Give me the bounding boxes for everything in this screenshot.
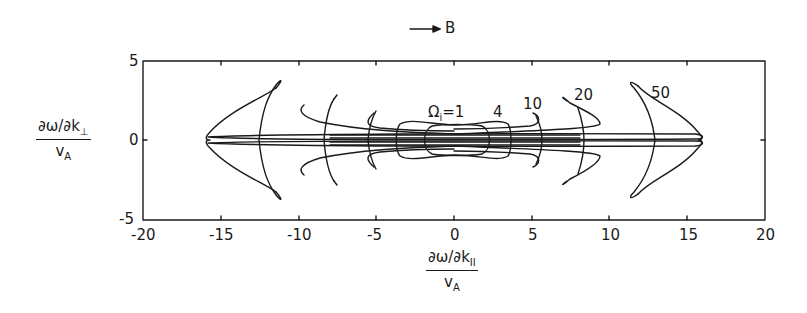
curve-label-omega-20: 20 bbox=[574, 86, 593, 104]
x-tick-10: 10 bbox=[601, 226, 620, 244]
x-tick-0: 0 bbox=[450, 226, 460, 244]
curve-label-omega-1: Ωi=1 bbox=[428, 103, 464, 123]
x-tick-neg15: -15 bbox=[209, 226, 234, 244]
group-velocity-diagram bbox=[0, 0, 807, 313]
y-tick-5: 5 bbox=[129, 52, 139, 70]
x-tick-neg10: -10 bbox=[287, 226, 312, 244]
x-tick-5: 5 bbox=[528, 226, 538, 244]
curve-omega-50 bbox=[206, 81, 702, 200]
y-axis-label: ∂ω/∂k⊥ vA bbox=[36, 117, 91, 162]
curve-label-omega-4: 4 bbox=[493, 103, 503, 121]
field-label: B bbox=[445, 19, 455, 37]
x-tick-15: 15 bbox=[679, 226, 698, 244]
curve-label-omega-10: 10 bbox=[523, 95, 542, 113]
x-axis-label: ∂ω/∂kII vA bbox=[426, 248, 478, 293]
x-tick-neg5: -5 bbox=[367, 226, 382, 244]
x-tick-neg20: -20 bbox=[131, 226, 156, 244]
curve-label-omega-50: 50 bbox=[651, 84, 670, 102]
x-tick-20: 20 bbox=[756, 226, 775, 244]
y-tick-0: 0 bbox=[129, 131, 139, 149]
